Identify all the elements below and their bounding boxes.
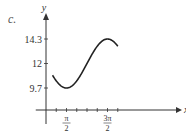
y-tick-label: 12 [32, 58, 42, 69]
y-tick-label: 14.3 [25, 34, 43, 45]
x-tick-label-numerator: π [64, 114, 68, 123]
x-tick-label-denominator: 2 [65, 124, 69, 133]
y-tick-label: 9.7 [30, 83, 43, 94]
chart: xyπ23π29.71214.3 [0, 0, 186, 134]
y-axis-label: y [41, 2, 47, 13]
x-axis-arrow-icon [176, 107, 182, 113]
x-tick-label-numerator: 3π [103, 114, 111, 123]
x-tick-label-denominator: 2 [106, 124, 110, 133]
series-line [53, 39, 118, 88]
x-axis-label: x [183, 104, 186, 115]
y-axis-arrow-icon [43, 13, 49, 20]
